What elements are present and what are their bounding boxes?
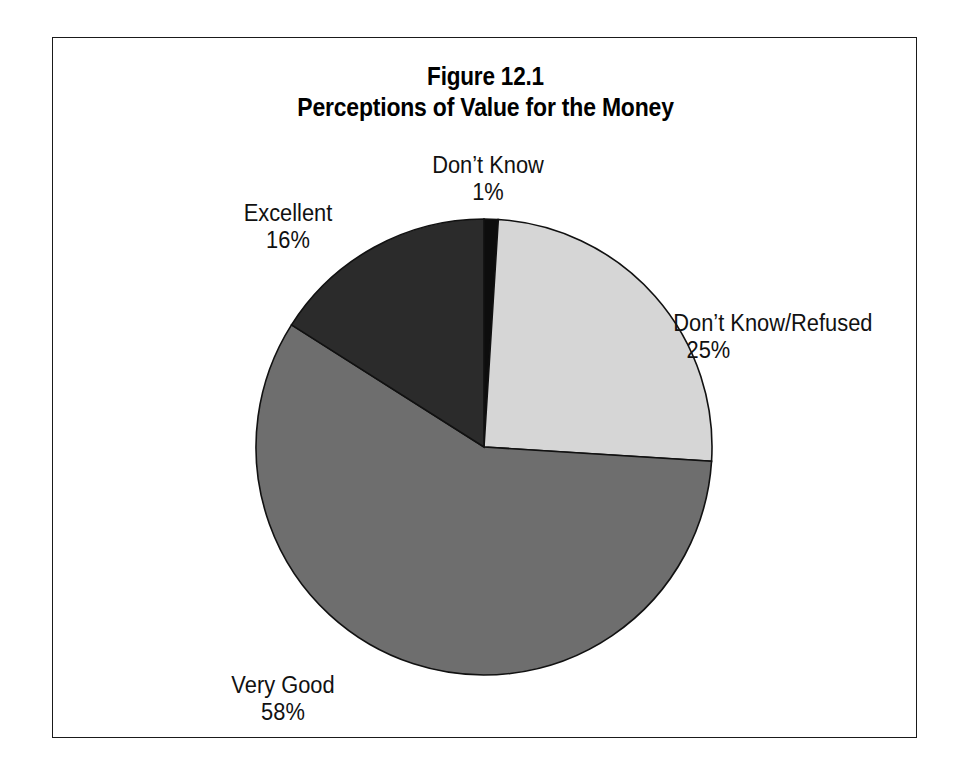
pie-label-very-good-name: Very Good: [188, 672, 378, 699]
pie-label-excellent-name: Excellent: [207, 200, 369, 227]
pie-label-dont-know-refused-value: 25%: [673, 337, 911, 364]
pie-label-dont-know-refused: Don’t Know/Refused 25%: [673, 310, 911, 363]
figure-frame: Figure 12.1 Perceptions of Value for the…: [52, 37, 917, 738]
pie-chart-svg: [53, 38, 918, 739]
pie-label-excellent: Excellent 16%: [207, 200, 369, 253]
pie-chart: Don’t Know 1% Excellent 16% Don’t Know/R…: [53, 38, 918, 739]
pie-label-dont-know-name: Don’t Know: [379, 152, 598, 179]
pie-label-very-good-value: 58%: [188, 699, 378, 726]
pie-label-dont-know-value: 1%: [379, 179, 598, 206]
pie-label-dont-know: Don’t Know 1%: [379, 152, 598, 205]
pie-label-excellent-value: 16%: [207, 227, 369, 254]
pie-slice-group: [256, 219, 712, 675]
pie-label-very-good: Very Good 58%: [188, 672, 378, 725]
pie-label-dont-know-refused-name: Don’t Know/Refused: [673, 310, 911, 337]
